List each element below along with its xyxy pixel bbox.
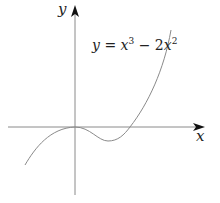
eq-equals: = <box>104 37 116 53</box>
eq-term2-exp: 2 <box>172 36 178 46</box>
eq-term2-base: x <box>164 37 172 53</box>
plot-canvas <box>0 0 220 203</box>
x-axis-label: x <box>196 129 204 144</box>
curve-equation-label: y = x3 − 2x2 <box>92 37 177 52</box>
y-axis-label: y <box>58 2 66 17</box>
eq-term2-coef: 2 <box>155 37 164 53</box>
eq-term1-exp: 3 <box>128 36 134 46</box>
eq-minus: − <box>139 37 151 53</box>
eq-lhs: y <box>92 37 100 53</box>
